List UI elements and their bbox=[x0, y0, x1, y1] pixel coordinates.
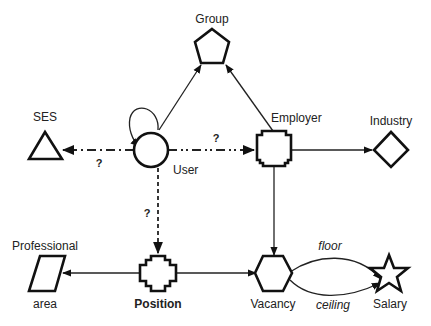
edges bbox=[63, 65, 381, 295]
label-ceiling: ceiling bbox=[316, 298, 350, 312]
node-ses[interactable] bbox=[29, 132, 62, 159]
label-professional-top: Professional bbox=[12, 239, 78, 253]
pentagon-icon bbox=[195, 29, 229, 63]
label-q-ses: ? bbox=[96, 157, 103, 169]
edge-vacancy-salary-ceiling bbox=[290, 280, 380, 295]
node-industry[interactable] bbox=[374, 132, 408, 167]
edge-user-group bbox=[159, 65, 201, 130]
edge-employer-group bbox=[226, 65, 273, 131]
triangle-icon bbox=[29, 132, 62, 159]
label-employer: Employer bbox=[271, 111, 322, 125]
label-group: Group bbox=[195, 12, 229, 26]
label-position: Position bbox=[134, 297, 181, 311]
label-ses: SES bbox=[33, 110, 57, 124]
label-q-employer: ? bbox=[213, 132, 220, 144]
node-group[interactable] bbox=[195, 29, 229, 63]
edge-vacancy-salary-floor bbox=[290, 258, 381, 279]
node-vacancy[interactable] bbox=[255, 256, 292, 291]
cross-icon bbox=[140, 256, 176, 291]
label-user: User bbox=[173, 163, 198, 177]
circle-icon bbox=[134, 133, 168, 167]
node-user[interactable] bbox=[134, 133, 168, 167]
label-industry: Industry bbox=[370, 114, 413, 128]
label-salary: Salary bbox=[373, 297, 407, 311]
notched-square-icon bbox=[257, 131, 291, 166]
hexagon-icon bbox=[255, 256, 292, 291]
diagram-canvas: Group SES User Employer Industry Profess… bbox=[0, 0, 431, 326]
parallelogram-icon bbox=[29, 256, 65, 291]
diamond-icon bbox=[374, 132, 408, 167]
label-vacancy: Vacancy bbox=[250, 297, 295, 311]
node-employer[interactable] bbox=[257, 131, 291, 166]
label-floor: floor bbox=[318, 239, 342, 253]
node-position[interactable] bbox=[140, 256, 176, 291]
label-q-position: ? bbox=[144, 207, 151, 219]
label-professional-bottom: area bbox=[33, 297, 57, 311]
node-professional-area[interactable] bbox=[29, 256, 65, 291]
